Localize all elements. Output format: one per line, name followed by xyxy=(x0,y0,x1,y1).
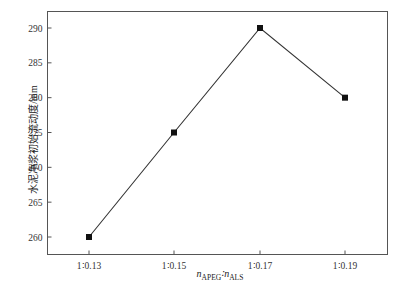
y-axis-label: 水泥净浆初始流动度/mm xyxy=(25,60,40,220)
square-marker xyxy=(171,130,177,136)
data-line xyxy=(89,28,345,237)
x-tick-label: 1∶0.13 xyxy=(77,261,102,271)
x-label-sub-apeg: APEG xyxy=(202,273,222,282)
square-marker xyxy=(342,95,348,101)
x-label-sub-als: ALS xyxy=(229,273,243,282)
y-tick-label: 290 xyxy=(28,24,43,34)
plot-frame xyxy=(48,12,388,255)
square-marker xyxy=(257,25,263,31)
data-markers xyxy=(86,25,348,240)
x-axis-label: nAPEG∶nALS xyxy=(180,268,260,282)
square-marker xyxy=(86,234,92,240)
line-chart: 260265270275280285290 1∶0.131∶0.151∶0.17… xyxy=(0,0,398,293)
x-tick-label: 1∶0.19 xyxy=(333,261,358,271)
y-tick-label: 260 xyxy=(28,233,43,243)
